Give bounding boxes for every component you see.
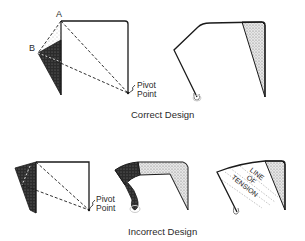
correct-fold-construction (38, 21, 135, 95)
incorrect-fold-construction (15, 162, 95, 213)
correct-design-caption: Correct Design (131, 109, 194, 120)
point-a-label: A (56, 9, 62, 19)
incorrect-fold-result (115, 162, 188, 213)
pocket-fold-diagram: A B Pivot Point Correct Design Pivot Poi… (0, 0, 305, 241)
correct-fold-result (174, 22, 265, 101)
point-b-label: B (29, 43, 35, 53)
pivot-label-top-line2: Point (137, 89, 157, 99)
incorrect-design-caption: Incorrect Design (128, 226, 197, 237)
pivot-label-bottom-line2: Point (96, 203, 116, 213)
tension-fold-result: LINE OF TENSION (217, 160, 285, 214)
